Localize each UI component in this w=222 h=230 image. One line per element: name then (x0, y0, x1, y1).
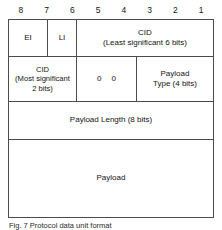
figure-caption: Fig. 7 Protocol data unit format (9, 221, 209, 230)
field-ei-label: EI (24, 33, 32, 44)
field-payload-label: Payload (97, 173, 126, 184)
header-row-4: Payload (9, 140, 213, 217)
field-cid-lsb-line2: (Least significant 6 bits) (103, 38, 187, 49)
field-payload: Payload (9, 140, 213, 217)
field-payload-type: Payload Type (4 bits) (137, 57, 213, 101)
field-cid-lsb-line1: CID (103, 28, 187, 39)
bit-number-1: 1 (188, 3, 214, 17)
field-payload-type-line2: Type (4 bits) (153, 79, 197, 90)
field-payload-length-label: Payload Length (8 bits) (70, 115, 152, 126)
bit-number-8: 8 (8, 3, 34, 17)
bit-number-6: 6 (60, 3, 86, 17)
figure-canvas: 8 7 6 5 4 3 2 1 EI LI CID (Least signifi… (0, 0, 222, 230)
reserved-bit-0: 0 (97, 74, 101, 83)
bit-number-3: 3 (137, 3, 163, 17)
bit-number-5: 5 (85, 3, 111, 17)
reserved-bit-1: 0 (112, 74, 116, 83)
field-li-label: LI (59, 33, 66, 44)
packet-format-diagram: EI LI CID (Least significant 6 bits) CID… (8, 19, 214, 218)
field-cid-msb-line3: 2 bits) (15, 84, 70, 94)
field-payload-length: Payload Length (8 bits) (9, 102, 213, 139)
field-cid-msb-line1: CID (15, 65, 70, 75)
field-ei: EI (9, 20, 48, 56)
field-cid-most-significant: CID (Most significant 2 bits) (9, 57, 77, 101)
field-cid-msb-line2: (Most significant (15, 74, 70, 84)
header-row-3: Payload Length (8 bits) (9, 102, 213, 140)
bit-number-2: 2 (163, 3, 189, 17)
header-row-1: EI LI CID (Least significant 6 bits) (9, 20, 213, 57)
bit-number-4: 4 (111, 3, 137, 17)
field-payload-type-line1: Payload (153, 69, 197, 80)
field-reserved-zero-bits: 00 (77, 57, 137, 101)
bit-number-7: 7 (34, 3, 60, 17)
field-cid-least-significant: CID (Least significant 6 bits) (77, 20, 213, 56)
bit-number-ruler: 8 7 6 5 4 3 2 1 (8, 3, 214, 17)
field-li: LI (48, 20, 77, 56)
header-row-2: CID (Most significant 2 bits) 00 Payload… (9, 57, 213, 102)
